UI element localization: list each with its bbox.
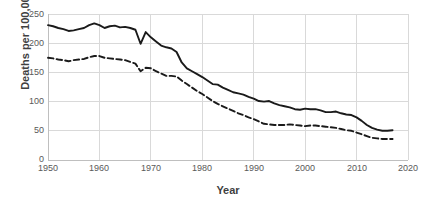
plot-area (0, 0, 426, 205)
chart-container: 250 200 150 100 50 0 1950 1960 1970 1980… (0, 0, 426, 205)
